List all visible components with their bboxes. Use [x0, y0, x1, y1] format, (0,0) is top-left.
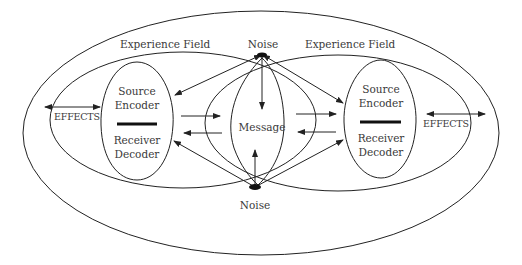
noise-bottom-to-right-decoder [255, 140, 343, 187]
right-source-text: Source [359, 82, 404, 96]
right-decoder-text: Decoder [358, 145, 405, 159]
left-effects-label: EFFECTS [54, 111, 100, 122]
noise-top-source-icon [257, 53, 267, 58]
left-receiver-decoder-label: Receiver Decoder [114, 133, 161, 161]
right-effects-label: EFFECTS [423, 118, 469, 129]
right-experience-field-label: Experience Field [305, 38, 395, 50]
right-encoder-text: Encoder [359, 96, 404, 110]
noise-top-to-right-encoder [263, 55, 343, 103]
noise-bottom-source-icon [249, 184, 261, 190]
noise-bottom-label: Noise [240, 199, 270, 211]
right-receiver-text: Receiver [358, 131, 405, 145]
left-encoder-decoder-oval [101, 62, 173, 180]
left-encoder-text: Encoder [115, 98, 160, 112]
message-label: Message [239, 121, 286, 133]
right-receiver-decoder-label: Receiver Decoder [358, 131, 405, 159]
left-decoder-text: Decoder [114, 147, 161, 161]
left-experience-field-label: Experience Field [120, 38, 210, 50]
noise-top-label: Noise [248, 38, 278, 50]
left-source-encoder-label: Source Encoder [115, 84, 160, 112]
right-source-encoder-label: Source Encoder [359, 82, 404, 110]
right-encoder-decoder-oval [344, 60, 416, 178]
left-receiver-text: Receiver [114, 133, 161, 147]
left-source-text: Source [115, 84, 160, 98]
